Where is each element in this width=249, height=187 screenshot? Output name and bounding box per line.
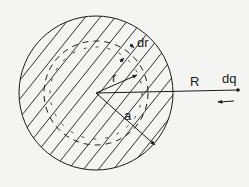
- label-R: R: [190, 74, 199, 89]
- sphere-diagram: r dr a R dq: [0, 0, 249, 187]
- label-dr: dr: [137, 35, 149, 50]
- hatching: [0, 0, 249, 180]
- charge-direction-arrow-icon: [218, 101, 234, 102]
- dr-arrow-outer: [130, 44, 134, 48]
- charge-point: [236, 88, 240, 92]
- label-dq: dq: [222, 71, 236, 86]
- label-r: r: [112, 70, 117, 85]
- dr-arrow-inner: [120, 58, 124, 62]
- distance-R-line: [96, 90, 238, 93]
- label-a: a: [124, 108, 132, 123]
